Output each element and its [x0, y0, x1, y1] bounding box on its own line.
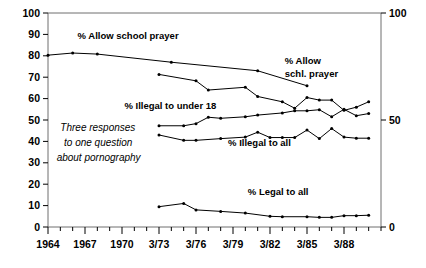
series-point-marker [219, 210, 222, 213]
series-point-marker [330, 115, 333, 118]
note-line1: Three responses [60, 122, 135, 133]
x-axis-tick-label: 3/73 [149, 238, 170, 250]
series-point-marker [318, 108, 321, 111]
series-point-marker [355, 106, 358, 109]
chart-background [0, 0, 426, 268]
series-point-marker [195, 208, 198, 211]
right-axis-tick-label: 50 [389, 114, 401, 126]
series-point-marker [158, 124, 161, 127]
allow-school-prayer-label: % Allow school prayer [78, 30, 179, 41]
series-point-marker [207, 89, 210, 92]
series-point-marker [355, 114, 358, 117]
x-axis-tick-label: 1970 [110, 238, 134, 250]
series-point-marker [293, 107, 296, 110]
x-axis-tick-label: 1967 [73, 238, 97, 250]
left-axis-tick-label: 100 [22, 7, 40, 19]
series-point-marker [256, 114, 259, 117]
series-point-marker [219, 137, 222, 140]
series-point-marker [47, 54, 50, 57]
series-point-marker [306, 129, 309, 132]
x-axis-tick-labels: 1964196719703/733/763/793/823/853/88 [36, 238, 354, 250]
left-axis-tick-label: 40 [28, 135, 40, 147]
x-axis-tick-label: 3/76 [186, 238, 207, 250]
series-point-marker [330, 216, 333, 219]
x-axis-tick-label: 3/85 [297, 238, 318, 250]
illegal-to-all-label: % Illegal to all [228, 137, 291, 148]
left-axis-tick-label: 30 [28, 156, 40, 168]
series-point-marker [195, 122, 198, 125]
series-point-marker [244, 86, 247, 89]
series-point-marker [306, 96, 309, 99]
series-point-marker [281, 100, 284, 103]
left-axis-tick-label: 0 [34, 221, 40, 233]
series-point-marker [170, 61, 173, 64]
series-point-marker [281, 111, 284, 114]
note-line2: to one question [64, 137, 133, 148]
series-point-marker [256, 131, 259, 134]
series-point-marker [158, 133, 161, 136]
x-axis-tick-label: 3/82 [260, 238, 281, 250]
series-point-marker [71, 52, 74, 55]
series-point-marker [367, 100, 370, 103]
series-point-marker [343, 108, 346, 111]
series-point-marker [343, 214, 346, 217]
illegal-under-18-label: % Illegal to under 18 [124, 100, 216, 111]
series-point-marker [355, 137, 358, 140]
left-axis-tick-label: 10 [28, 199, 40, 211]
series-point-marker [195, 139, 198, 142]
legal-to-all-label: % Legal to all [248, 186, 309, 197]
right-axis-tick-label: 0 [389, 221, 395, 233]
series-point-marker [195, 79, 198, 82]
series-point-marker [306, 109, 309, 112]
left-axis-tick-label: 80 [28, 49, 40, 61]
note-line3: about pornography [57, 152, 142, 163]
series-point-marker [182, 124, 185, 127]
series-point-marker [318, 99, 321, 102]
series-point-marker [281, 215, 284, 218]
allow-schl-prayer-label-line1: % Allow [285, 55, 322, 66]
series-point-marker [96, 53, 99, 56]
series-point-marker [256, 69, 259, 72]
series-point-marker [182, 139, 185, 142]
left-axis-tick-label: 60 [28, 92, 40, 104]
series-point-marker [182, 202, 185, 205]
series-point-marker [330, 127, 333, 130]
series-point-marker [306, 84, 309, 87]
series-point-marker [293, 136, 296, 139]
series-point-marker [343, 136, 346, 139]
x-axis-tick-label: 1964 [36, 238, 60, 250]
series-point-marker [367, 112, 370, 115]
series-point-marker [207, 116, 210, 119]
series-point-marker [367, 214, 370, 217]
series-point-marker [244, 115, 247, 118]
series-point-marker [330, 99, 333, 102]
series-point-marker [244, 212, 247, 215]
left-axis-tick-label: 50 [28, 114, 40, 126]
series-point-marker [256, 95, 259, 98]
series-point-marker [219, 117, 222, 120]
series-point-marker [158, 73, 161, 76]
series-point-marker [158, 205, 161, 208]
pornography-opinion-line-chart: 0102030405060708090100 050100 1964196719… [0, 0, 426, 268]
series-point-marker [306, 215, 309, 218]
left-axis-tick-label: 70 [28, 71, 40, 83]
x-axis-tick-label: 3/88 [334, 238, 355, 250]
chart-canvas: 0102030405060708090100 050100 1964196719… [0, 0, 426, 268]
series-point-marker [318, 137, 321, 140]
left-axis-tick-label: 20 [28, 178, 40, 190]
series-point-marker [269, 215, 272, 218]
right-axis-tick-label: 100 [389, 7, 407, 19]
left-axis-tick-label: 90 [28, 28, 40, 40]
allow-schl-prayer-label-line2: schl. prayer [285, 68, 339, 79]
series-point-marker [367, 137, 370, 140]
series-point-marker [318, 216, 321, 219]
x-axis-tick-label: 3/79 [223, 238, 244, 250]
series-point-marker [293, 109, 296, 112]
series-point-marker [355, 214, 358, 217]
